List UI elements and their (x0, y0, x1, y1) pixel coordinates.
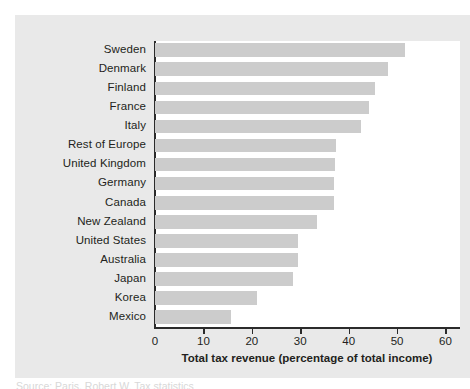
axis-tick (300, 328, 301, 334)
category-label: Germany (98, 175, 146, 189)
bar (155, 215, 317, 229)
category-label: Italy (124, 118, 146, 132)
axis-tick-label: 30 (294, 335, 307, 347)
axis-tick (252, 328, 253, 334)
category-label: Korea (115, 290, 146, 304)
category-label: United Kingdom (63, 156, 146, 170)
value-axis-line (154, 327, 460, 329)
bar (155, 82, 375, 96)
axis-tick (397, 328, 398, 334)
category-label: United States (76, 233, 146, 247)
bar (155, 310, 231, 324)
axis-tick-label: 20 (245, 335, 258, 347)
bar-row: Korea (15, 289, 470, 308)
x-axis-title: Total tax revenue (percentage of total i… (154, 352, 460, 364)
bar-rows: SwedenDenmarkFinlandFranceItalyRest of E… (15, 41, 470, 327)
bar-row: Japan (15, 270, 470, 289)
axis-tick-label: 60 (439, 335, 452, 347)
figure-panel: SwedenDenmarkFinlandFranceItalyRest of E… (15, 15, 470, 378)
category-label: Canada (105, 195, 146, 209)
bar (155, 291, 257, 305)
bar (155, 101, 369, 115)
bar (155, 120, 361, 134)
source-caption: Source: Paris, Robert W. Tax statistics (16, 381, 194, 389)
category-label: Mexico (109, 309, 146, 323)
axis-tick-label: 10 (197, 335, 210, 347)
bar-row: France (15, 98, 470, 117)
bar-row: Germany (15, 174, 470, 193)
bar-row: Mexico (15, 308, 470, 327)
axis-tick-label: 40 (342, 335, 355, 347)
bar (155, 62, 388, 76)
category-label: Finland (108, 80, 146, 94)
bar-row: New Zealand (15, 213, 470, 232)
bar-row: United Kingdom (15, 155, 470, 174)
bar (155, 253, 298, 267)
category-label: Australia (100, 252, 146, 266)
bar (155, 234, 298, 248)
bar (155, 43, 405, 57)
category-label: Rest of Europe (68, 137, 146, 151)
bar (155, 196, 334, 210)
bar (155, 272, 293, 286)
bar-row: Rest of Europe (15, 136, 470, 155)
bar-row: Australia (15, 251, 470, 270)
bar-row: Canada (15, 194, 470, 213)
axis-tick (203, 328, 204, 334)
bar-row: Finland (15, 79, 470, 98)
axis-tick-label: 50 (391, 335, 404, 347)
category-label: New Zealand (77, 214, 146, 228)
bar-row: Sweden (15, 41, 470, 60)
axis-tick (445, 328, 446, 334)
bar (155, 177, 334, 191)
category-label: France (110, 99, 146, 113)
category-label: Japan (114, 271, 146, 285)
category-label: Denmark (99, 61, 146, 75)
bar (155, 139, 336, 153)
category-label: Sweden (104, 42, 146, 56)
bar (155, 158, 335, 172)
bar-row: United States (15, 232, 470, 251)
axis-tick-label: 0 (152, 335, 158, 347)
bar-row: Denmark (15, 60, 470, 79)
bar-row: Italy (15, 117, 470, 136)
axis-tick (349, 328, 350, 334)
